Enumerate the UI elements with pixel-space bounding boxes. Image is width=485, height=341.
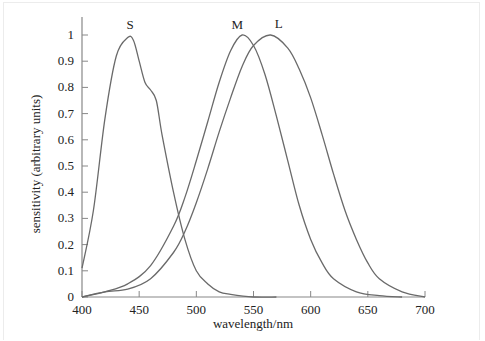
y-tick-label: 0.2 [58, 237, 74, 252]
labels: SML [126, 16, 282, 32]
y-tick-label: 0.3 [58, 210, 74, 225]
y-tick-label: 0.1 [58, 263, 74, 278]
y-tick-label: 1 [68, 27, 75, 42]
x-tick-label: 450 [129, 302, 149, 317]
curves [82, 35, 425, 297]
y-tick-label: 0.8 [58, 79, 74, 94]
y-tick-label: 0.9 [58, 53, 74, 68]
curve-l [82, 35, 425, 297]
x-tick-label: 700 [415, 302, 435, 317]
curve-label-l: L [275, 16, 283, 31]
x-tick-label: 400 [72, 302, 92, 317]
curve-label-s: S [126, 17, 133, 32]
y-tick-label: 0.4 [58, 184, 75, 199]
x-tick-label: 650 [358, 302, 378, 317]
y-tick-label: 0.6 [58, 132, 75, 147]
y-tick-label: 0.7 [58, 106, 75, 121]
x-tick-label: 550 [244, 302, 264, 317]
curve-m [82, 35, 402, 297]
x-tick-label: 600 [301, 302, 321, 317]
cone-sensitivity-chart: 00.10.20.30.40.50.60.70.80.9140045050055… [0, 0, 485, 341]
curve-label-m: M [231, 17, 243, 32]
y-tick-label: 0.5 [58, 158, 74, 173]
y-axis-title: sensitivity (arbitrary units) [28, 95, 43, 234]
x-tick-label: 500 [187, 302, 207, 317]
x-axis-title: wavelength/nm [213, 316, 293, 331]
curve-s [82, 36, 276, 297]
